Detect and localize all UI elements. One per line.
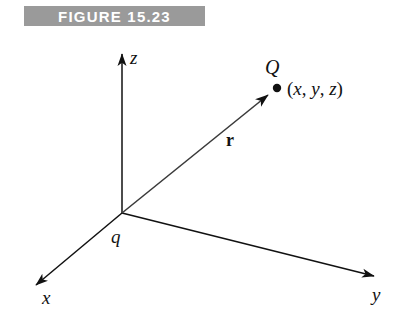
coordinate-diagram bbox=[0, 0, 403, 322]
field-point-coordinates-label: (x, y, z) bbox=[287, 79, 343, 98]
coordinate-separator-1: , bbox=[302, 78, 312, 99]
origin-charge-label: q bbox=[111, 227, 121, 246]
x-axis-label: x bbox=[42, 288, 50, 307]
y-axis-line bbox=[122, 213, 374, 276]
position-vector-line bbox=[122, 95, 268, 213]
field-point-dot bbox=[273, 84, 281, 92]
coordinate-x: x bbox=[293, 78, 301, 99]
z-axis-label: z bbox=[130, 48, 137, 67]
coordinate-y: y bbox=[311, 78, 319, 99]
position-vector-label: r bbox=[226, 131, 234, 149]
coordinate-z: z bbox=[329, 78, 336, 99]
coordinate-separator-2: , bbox=[320, 78, 330, 99]
x-axis-line bbox=[36, 213, 122, 285]
field-point-label: Q bbox=[265, 57, 279, 77]
coordinate-close-paren: ) bbox=[337, 78, 343, 99]
y-axis-label: y bbox=[372, 285, 380, 304]
figure-container: FIGURE 15.23 z x y q Q (x, y, z) bbox=[0, 0, 403, 322]
